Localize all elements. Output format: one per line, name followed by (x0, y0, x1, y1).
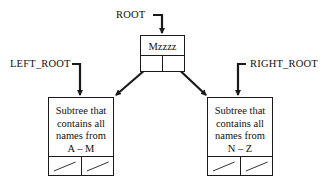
left-root-pointer-arrow-icon (72, 64, 80, 95)
null-pointer-slash-icon (82, 157, 114, 175)
left-subtree-child-pointers (49, 156, 113, 175)
right-subtree-line-3: names from (215, 130, 265, 143)
root-node-child-pointers (141, 55, 184, 71)
left-root-pointer-label: LEFT_ROOT (10, 58, 71, 70)
root-pointer-label: ROOT (116, 9, 145, 21)
left-subtree-right-null-pointer (81, 157, 114, 175)
right-subtree-line-4: N – Z (215, 143, 265, 156)
left-subtree-left-null-pointer (49, 157, 81, 175)
left-subtree-node: Subtree that contains all names from A –… (48, 97, 114, 176)
left-subtree-line-4: A – M (56, 143, 106, 156)
root-right-pointer-cell (162, 56, 184, 71)
right-subtree-node: Subtree that contains all names from N –… (207, 97, 273, 176)
right-subtree-child-pointers (208, 156, 272, 175)
root-left-pointer-cell (141, 56, 162, 71)
root-node-value-text: Mzzzz (149, 41, 177, 54)
null-pointer-slash-icon (208, 157, 240, 175)
right-subtree-line-1: Subtree that (215, 105, 265, 118)
left-subtree-line-3: names from (56, 130, 106, 143)
right-subtree-left-null-pointer (208, 157, 240, 175)
right-subtree-right-null-pointer (240, 157, 273, 175)
right-root-pointer-label: RIGHT_ROOT (250, 58, 318, 70)
right-subtree-description: Subtree that contains all names from N –… (208, 98, 272, 160)
tree-diagram: ROOT LEFT_ROOT RIGHT_ROOT Mzzzz Subtree … (0, 0, 327, 186)
null-pointer-slash-icon (49, 157, 81, 175)
right-subtree-line-2: contains all (215, 118, 265, 131)
root-pointer-arrow-icon (153, 15, 162, 33)
left-subtree-line-1: Subtree that (56, 105, 106, 118)
left-subtree-description: Subtree that contains all names from A –… (49, 98, 113, 160)
left-subtree-line-2: contains all (56, 118, 106, 131)
null-pointer-slash-icon (241, 157, 273, 175)
root-node: Mzzzz (140, 35, 185, 72)
right-root-pointer-arrow-icon (238, 64, 246, 95)
